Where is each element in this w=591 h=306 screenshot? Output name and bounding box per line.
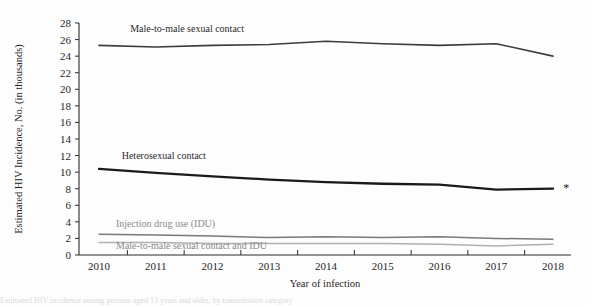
line-chart: 0246810121416182022242628201020112012201… — [0, 0, 591, 306]
series-line-2 — [99, 234, 553, 239]
annotation-asterisk: * — [563, 181, 569, 195]
x-axis-tick-label: 2010 — [88, 260, 111, 272]
y-axis-tick-label: 16 — [60, 116, 72, 128]
x-axis-tick-label: 2014 — [315, 260, 338, 272]
series-label-3: Male-to-male sexual contact and IDU — [116, 240, 268, 251]
series-label-1: Heterosexual contact — [122, 150, 206, 161]
x-axis-tick-label: 2011 — [145, 260, 167, 272]
x-axis-tick-label: 2017 — [485, 260, 508, 272]
y-axis-tick-label: 0 — [66, 249, 72, 261]
series-label-2: Injection drug use (IDU) — [116, 218, 215, 230]
y-axis-tick-label: 28 — [60, 17, 72, 29]
y-axis-tick-label: 4 — [66, 216, 72, 228]
hiv-incidence-figure: 0246810121416182022242628201020112012201… — [0, 0, 591, 306]
x-axis-tick-label: 2015 — [372, 260, 395, 272]
x-axis-tick-label: 2012 — [202, 260, 224, 272]
series-label-0: Male-to-male sexual contact — [130, 23, 244, 34]
x-axis-tick-label: 2018 — [542, 260, 565, 272]
y-axis-tick-label: 8 — [66, 183, 72, 195]
figure-caption-fragment: Estimated HIV incidence among persons ag… — [0, 292, 591, 306]
y-axis-tick-label: 22 — [60, 67, 71, 79]
y-axis-tick-label: 6 — [66, 199, 72, 211]
series-line-1 — [99, 169, 553, 190]
x-axis-tick-label: 2013 — [258, 260, 281, 272]
y-axis-tick-label: 18 — [60, 100, 72, 112]
x-axis-title: Year of infection — [290, 278, 361, 289]
series-line-0 — [99, 41, 553, 56]
y-axis-tick-label: 24 — [60, 50, 72, 62]
y-axis-tick-label: 20 — [60, 83, 72, 95]
y-axis-title: Estimated HIV Incidence, No. (in thousan… — [13, 44, 25, 234]
y-axis-tick-label: 14 — [60, 133, 72, 145]
y-axis-tick-label: 12 — [60, 150, 71, 162]
y-axis-tick-label: 26 — [60, 34, 72, 46]
y-axis-tick-label: 2 — [66, 232, 72, 244]
chart-plot-area: 0246810121416182022242628201020112012201… — [13, 17, 571, 289]
x-axis-tick-label: 2016 — [429, 260, 452, 272]
y-axis-tick-label: 10 — [60, 166, 72, 178]
